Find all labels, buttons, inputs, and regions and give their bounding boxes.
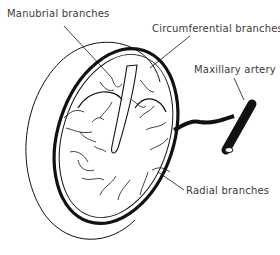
tympanic-membrane-diagram: Manubrial branches Circumferential branc… bbox=[0, 0, 280, 255]
label-maxillary-artery: Maxillary artery bbox=[194, 64, 276, 75]
leader-maxillary bbox=[234, 78, 244, 100]
manubrium bbox=[112, 65, 137, 153]
label-circumferential-branches: Circumferential branches bbox=[152, 23, 280, 34]
maxillary-artery bbox=[226, 104, 252, 150]
leader-radial bbox=[158, 172, 184, 190]
label-manubrial-branches: Manubrial branches bbox=[7, 8, 109, 19]
label-radial-branches: Radial branches bbox=[186, 185, 269, 196]
diagram-canvas bbox=[0, 0, 280, 255]
leader-circumferential bbox=[150, 36, 190, 68]
maxillary-artery-connector bbox=[174, 116, 234, 130]
